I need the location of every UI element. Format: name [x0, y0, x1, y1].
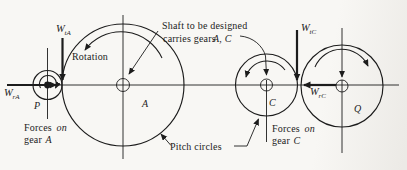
forces-gear-c-word1: Forces: [272, 123, 300, 134]
gear-p-label: P: [33, 100, 40, 111]
forces-gear-a-word4: A: [45, 134, 53, 145]
wta-label-subscript: tA: [65, 29, 72, 37]
pitch-circles-label: Pitch circles: [170, 141, 222, 152]
forces-gear-a-word1: Forces: [24, 122, 52, 133]
diagram-canvas: W tA W rA W tC W rC P A C Q Rotation Sha…: [0, 0, 407, 170]
wtc-label-subscript: tC: [310, 28, 317, 36]
gear-q-rotation-arrow: [315, 49, 368, 67]
wrc-label-subscript: rC: [319, 92, 327, 100]
forces-gear-c-word3: gear: [272, 135, 290, 146]
shaft-note-leader-to-gear-c: [240, 36, 267, 75]
gear-q-label: Q: [354, 103, 362, 114]
gear-a-label: A: [141, 98, 149, 109]
gear-train-force-diagram: W tA W rA W tC W rC P A C Q Rotation Sha…: [0, 0, 407, 170]
forces-gear-c-word2: on: [305, 123, 315, 134]
shaft-note-line2-gears: A, C: [212, 33, 232, 44]
shaft-note-line2-prefix: carries gears: [163, 33, 216, 44]
forces-gear-a-word3: gear: [24, 134, 42, 145]
pitch-circles-leader-right: [234, 119, 259, 146]
gear-c-label: C: [269, 97, 276, 108]
wra-label-subscript: rA: [13, 93, 21, 101]
shaft-note-line1: Shaft to be designed: [162, 20, 247, 31]
forces-gear-a-word2: on: [57, 122, 67, 133]
rotation-label: Rotation: [72, 51, 108, 62]
forces-gear-c-word4: C: [294, 135, 301, 146]
